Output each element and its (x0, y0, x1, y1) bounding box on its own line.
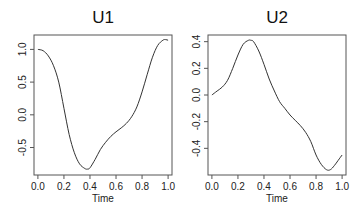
chart-canvas: U10.00.20.40.60.81.0-0.50.00.51.0TimeU20… (0, 0, 364, 214)
x-tick-label: 0.0 (205, 181, 219, 192)
chart-title: U2 (266, 8, 288, 27)
plot-frame (34, 35, 172, 175)
y-tick-label: 1.0 (17, 42, 28, 56)
x-tick-label: 0.8 (135, 181, 149, 192)
y-tick-label: 0.4 (191, 34, 202, 48)
series-line-u2 (212, 40, 342, 170)
x-axis-label: Time (266, 193, 288, 204)
plot-frame (208, 35, 346, 175)
x-tick-label: 1.0 (335, 181, 349, 192)
x-tick-label: 0.8 (309, 181, 323, 192)
x-tick-label: 0.2 (57, 181, 71, 192)
y-tick-label: 0.0 (191, 88, 202, 102)
y-tick-label: -0.4 (191, 139, 202, 157)
y-tick-label: 0.2 (191, 61, 202, 75)
chart-title: U1 (92, 8, 114, 27)
series-line-u1 (38, 40, 168, 170)
plot-panel-u2: U20.00.20.40.60.81.0-0.4-0.20.00.20.4Tim… (191, 8, 349, 204)
y-tick-label: -0.2 (191, 113, 202, 131)
x-tick-label: 0.2 (231, 181, 245, 192)
x-tick-label: 0.6 (109, 181, 123, 192)
x-axis-label: Time (92, 193, 114, 204)
x-tick-label: 1.0 (161, 181, 175, 192)
y-tick-label: 0.5 (17, 75, 28, 89)
y-tick-label: -0.5 (17, 138, 28, 156)
x-tick-label: 0.4 (83, 181, 97, 192)
plot-panel-u1: U10.00.20.40.60.81.0-0.50.00.51.0Time (17, 8, 175, 204)
x-tick-label: 0.0 (31, 181, 45, 192)
x-tick-label: 0.6 (283, 181, 297, 192)
y-tick-label: 0.0 (17, 107, 28, 121)
x-tick-label: 0.4 (257, 181, 271, 192)
